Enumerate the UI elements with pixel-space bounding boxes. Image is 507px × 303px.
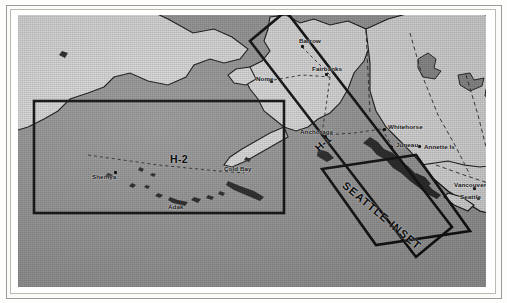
city-label-shemya: Shemya: [92, 173, 116, 180]
city-label-annette-is: Annette Is: [424, 143, 455, 150]
city-marker: [324, 135, 327, 138]
coverage-box-h1: [250, 15, 452, 257]
city-label-cold-bay: Cold Bay: [224, 165, 252, 172]
city-label-vancouver: Vancouver: [454, 181, 486, 188]
city-marker: [418, 145, 421, 148]
city-label-whitehorse: Whitehorse: [388, 123, 423, 130]
coverage-box-h2: [34, 101, 284, 213]
city-label-barrow: Barrow: [299, 37, 321, 44]
city-label-seattle: Seattle: [460, 193, 481, 200]
city-marker: [301, 45, 304, 48]
city-label-fairbanks: Fairbanks: [312, 65, 342, 72]
coverage-map: H-2 H-1 SEATTLE INSET Barrow Nome Fairba…: [18, 15, 486, 287]
city-label-juneau: Juneau: [396, 141, 418, 148]
city-marker: [390, 146, 393, 149]
city-marker: [383, 128, 386, 131]
city-label-nome: Nome: [256, 75, 274, 82]
screenshot-root: H-2 H-1 SEATTLE INSET Barrow Nome Fairba…: [0, 0, 507, 303]
city-marker: [325, 73, 328, 76]
city-label-anchorage: Anchorage: [300, 128, 333, 135]
city-label-adak: Adak: [168, 203, 184, 210]
zone-label-h2: H-2: [170, 153, 188, 165]
